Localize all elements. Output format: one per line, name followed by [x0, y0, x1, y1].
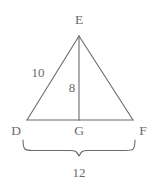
measure-label-side-DE: 10	[32, 66, 45, 79]
geometry-figure: E D F G 10 8 12	[0, 0, 159, 187]
vertex-label-D: D	[11, 124, 21, 138]
vertex-label-E: E	[75, 13, 83, 27]
segment-EF	[79, 36, 133, 120]
measure-label-altitude-EG: 8	[69, 81, 76, 94]
base-brace-icon	[23, 140, 135, 156]
triangle-diagram-canvas	[0, 0, 159, 187]
vertex-label-F: F	[139, 124, 147, 138]
measure-label-base-DF: 12	[73, 166, 86, 179]
vertex-label-G: G	[74, 124, 84, 138]
